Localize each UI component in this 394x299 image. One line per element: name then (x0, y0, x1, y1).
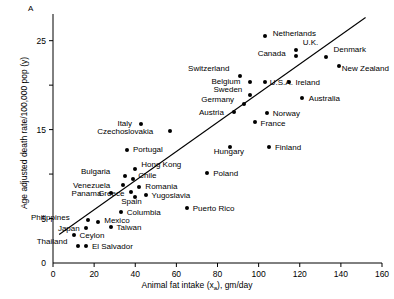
x-tick-label: 60 (172, 269, 182, 279)
x-tick-label: 80 (213, 269, 223, 279)
scatter-plot-figure: A Age adjusted death rate/100,000 pop (y… (0, 0, 394, 299)
y-tick-label: 15 (37, 125, 47, 135)
data-point-label: Czechoslovakia (97, 128, 153, 136)
y-tick-label-zero: 0 (41, 258, 46, 268)
data-point-label: Poland (213, 170, 238, 178)
data-point-label: U.K. (303, 39, 319, 47)
data-point-label: Hungary (214, 148, 244, 156)
data-point (109, 225, 113, 229)
data-point-label: Puerto Rico (193, 205, 235, 213)
data-point (76, 244, 80, 248)
y-tick-label: 25 (37, 36, 47, 46)
data-point-label: Ireland (295, 79, 319, 87)
data-point-label: Thailand (37, 238, 68, 246)
data-point-label: Panama (72, 190, 102, 198)
data-point (294, 48, 298, 52)
data-point (109, 191, 113, 195)
data-point (129, 190, 133, 194)
x-tick-label: 120 (293, 269, 307, 279)
x-tick-label: 0 (51, 269, 56, 279)
data-point-label: Australia (309, 95, 340, 103)
data-point-label: Yugoslavia (152, 192, 191, 200)
data-point (144, 193, 148, 197)
data-point (300, 96, 304, 100)
data-point (232, 110, 236, 114)
data-point (133, 167, 137, 171)
data-point-label: Austria (199, 109, 224, 117)
data-point-label: Chile (138, 172, 156, 180)
x-tick-label: 140 (334, 269, 348, 279)
data-point-label: Japan (58, 225, 80, 233)
x-tick-label: 40 (131, 269, 141, 279)
data-point-label: Spain (121, 198, 141, 206)
data-point-label: Taiwan (117, 224, 142, 232)
data-point-label: Bulgaria (81, 168, 110, 176)
x-tick-label: 160 (375, 269, 389, 279)
data-point-label: Denmark (333, 46, 365, 54)
data-point-label: Canada (258, 50, 286, 58)
data-point-label: Germany (201, 96, 234, 104)
data-point (84, 244, 88, 248)
data-point-label: Finland (275, 144, 301, 152)
data-point (263, 80, 267, 84)
data-point-label: El Salvador (92, 243, 133, 251)
data-point (265, 111, 269, 115)
data-point-label: Philippines (31, 214, 70, 222)
regression-line (59, 18, 365, 235)
data-point-label: Switzerland (188, 65, 229, 73)
data-point (263, 34, 267, 38)
data-point (294, 54, 298, 58)
x-tick-label: 20 (89, 269, 99, 279)
data-point-label: Ceylon (80, 232, 105, 240)
data-point-label: New Zealand (342, 65, 389, 73)
data-point (253, 120, 257, 124)
x-tick-label: 100 (252, 269, 266, 279)
data-point-label: Columbia (127, 209, 161, 217)
data-point-label: Hong Kong (141, 161, 181, 169)
data-point (123, 174, 127, 178)
data-point (185, 206, 189, 210)
data-point-label: Norway (273, 110, 300, 118)
data-point (267, 145, 271, 149)
data-point-label: Portugal (133, 146, 163, 154)
data-point (337, 64, 341, 68)
data-point-label: Sweden (213, 86, 242, 94)
data-point-label: France (261, 120, 286, 128)
data-point (121, 183, 125, 187)
